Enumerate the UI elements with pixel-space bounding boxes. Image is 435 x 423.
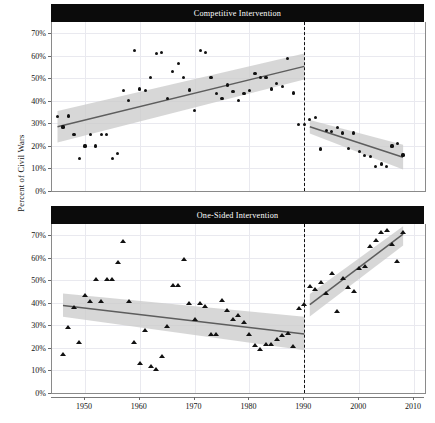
data-point [401, 153, 404, 156]
x-tick-label: 1980 [228, 402, 268, 411]
data-point [155, 52, 158, 55]
x-tick-label: 1970 [174, 402, 214, 411]
data-point [257, 347, 263, 351]
data-point [373, 238, 379, 242]
data-point [202, 304, 208, 308]
data-point [384, 228, 390, 232]
data-point [367, 244, 373, 248]
x-tick-mark [358, 397, 359, 400]
y-tick-mark [48, 393, 51, 394]
data-point [351, 289, 357, 293]
panel-competitive-intervention: Competitive Intervention [51, 4, 424, 194]
data-point [241, 320, 247, 324]
y-tick-label: 70% [8, 29, 46, 38]
data-point [374, 165, 377, 168]
data-point [98, 299, 104, 303]
y-tick-label: 20% [8, 343, 46, 352]
y-tick-mark [48, 78, 51, 79]
data-point [188, 88, 191, 91]
y-tick-label: 0% [8, 389, 46, 398]
data-point [336, 126, 339, 129]
data-point [389, 242, 395, 246]
y-tick-label: 40% [8, 298, 46, 307]
data-point [290, 344, 296, 348]
data-point [253, 72, 256, 75]
y-tick-mark [48, 33, 51, 34]
data-point [340, 276, 346, 280]
data-point [83, 144, 86, 147]
data-point [242, 92, 245, 95]
y-tick-label: 50% [8, 276, 46, 285]
data-point [142, 328, 148, 332]
structural-break-line [304, 224, 305, 393]
data-point [323, 291, 329, 295]
data-point [296, 306, 302, 310]
x-tick-mark [248, 397, 249, 400]
data-point [76, 340, 82, 344]
data-point [115, 260, 121, 264]
data-point [219, 298, 225, 302]
data-point [153, 367, 159, 371]
data-point [341, 131, 344, 134]
data-point [334, 309, 340, 313]
data-point [347, 147, 350, 150]
data-point [109, 277, 115, 281]
data-point [111, 157, 114, 160]
data-point [186, 301, 192, 305]
data-point [56, 115, 59, 118]
y-tick-label: 30% [8, 119, 46, 128]
y-tick-label: 40% [8, 96, 46, 105]
data-point [369, 155, 372, 158]
data-point [120, 239, 126, 243]
y-tick-mark [48, 56, 51, 57]
data-point [400, 230, 406, 234]
y-tick-label: 60% [8, 253, 46, 262]
y-tick-mark [48, 370, 51, 371]
y-tick-mark [48, 146, 51, 147]
data-point [362, 264, 368, 268]
gridline-horizontal [52, 191, 425, 192]
y-tick-mark [48, 325, 51, 326]
y-tick-mark [48, 191, 51, 192]
data-point [285, 331, 291, 335]
x-tick-mark [303, 397, 304, 400]
data-point [231, 90, 234, 93]
data-point [71, 305, 77, 309]
y-tick-label: 60% [8, 51, 46, 60]
data-point [60, 352, 66, 356]
data-point [137, 361, 143, 365]
data-point [394, 259, 400, 263]
data-point [213, 332, 219, 336]
data-point [252, 343, 258, 347]
x-axis-line [51, 397, 424, 398]
confidence-band [52, 22, 425, 191]
data-point [65, 325, 71, 329]
y-tick-mark [48, 168, 51, 169]
data-point [268, 342, 274, 346]
panel-title-one-sided: One-Sided Intervention [51, 206, 424, 224]
data-point [199, 49, 202, 52]
panel-title-competitive: Competitive Intervention [51, 4, 424, 22]
data-point [314, 116, 317, 119]
x-tick-mark [194, 397, 195, 400]
x-tick-label: 1950 [64, 402, 104, 411]
x-tick-mark [84, 397, 85, 400]
y-tick-mark [48, 235, 51, 236]
data-point [192, 317, 198, 321]
structural-break-line [304, 22, 305, 191]
data-point [325, 129, 328, 132]
y-tick-mark [48, 303, 51, 304]
y-tick-label: 0% [8, 187, 46, 196]
data-point [312, 287, 318, 291]
data-point [264, 76, 267, 79]
data-point [78, 157, 81, 160]
x-tick-mark [139, 397, 140, 400]
y-tick-mark [48, 123, 51, 124]
data-point [235, 313, 241, 317]
data-point [358, 150, 361, 153]
y-tick-mark [48, 348, 51, 349]
data-point [82, 293, 88, 297]
y-tick-mark [48, 280, 51, 281]
data-point [224, 308, 230, 312]
data-point [133, 49, 136, 52]
